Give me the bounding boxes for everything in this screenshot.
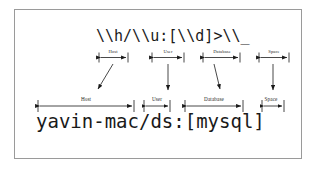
- lower-label-database: Database: [204, 96, 224, 102]
- diagram-figure: \\h/\\u:[\\d]>\\_ yavin-mac/ds:[mysql] H…: [0, 0, 318, 173]
- lower-label-host: Host: [81, 96, 91, 102]
- pattern-code-text: \\h/\\u:[\\d]>\\_: [96, 27, 250, 45]
- lower-label-space: Space: [265, 96, 278, 102]
- upper-label-host: Host: [108, 49, 117, 54]
- prompt-code-text: yavin-mac/ds:[mysql]: [36, 110, 265, 132]
- upper-label-user: User: [163, 49, 172, 54]
- upper-label-space: Space: [268, 49, 279, 54]
- lower-label-user: User: [152, 96, 162, 102]
- upper-label-database: Database: [213, 49, 231, 54]
